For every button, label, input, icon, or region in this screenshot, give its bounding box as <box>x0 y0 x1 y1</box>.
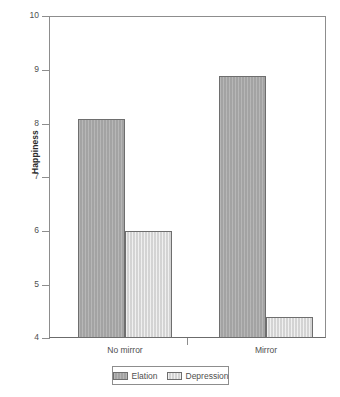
y-tick-group-10: 10 <box>0 11 39 21</box>
y-tick-label-10: 10 <box>3 11 39 20</box>
x-axis-group-separator-tick <box>187 338 188 345</box>
legend-swatch-elation-icon <box>113 372 128 380</box>
y-tick-label-4: 4 <box>3 333 39 342</box>
legend-label-elation: Elation <box>132 371 158 381</box>
y-tick-group-6: 6 <box>0 226 39 236</box>
bar-no-mirror-depression <box>125 231 172 338</box>
y-tick-group-7: 7 <box>0 172 39 182</box>
y-tick-label-6: 6 <box>3 226 39 235</box>
bar-mirror-depression <box>266 317 313 338</box>
y-tick-group-4: 4 <box>0 333 39 343</box>
legend-swatch-depression-icon <box>167 372 182 380</box>
y-tick-group-5: 5 <box>0 280 39 290</box>
legend: Elation Depression <box>112 366 229 385</box>
bar-chart-figure: Happiness 10 9 8 7 6 5 4 No mirror Mirro… <box>0 0 340 397</box>
legend-label-depression: Depression <box>186 371 229 381</box>
x-axis-label-mirror: Mirror <box>226 345 306 355</box>
bar-mirror-elation <box>219 76 266 338</box>
plot-area <box>50 17 325 338</box>
y-tick-group-8: 8 <box>0 119 39 129</box>
x-axis-label-no-mirror: No mirror <box>85 345 165 355</box>
bar-no-mirror-elation <box>78 119 125 338</box>
y-tick-mark-4 <box>42 338 50 339</box>
y-tick-label-7: 7 <box>3 172 39 181</box>
y-tick-label-8: 8 <box>3 119 39 128</box>
y-tick-group-9: 9 <box>0 65 39 75</box>
legend-entry-depression: Depression <box>167 371 229 381</box>
y-tick-label-9: 9 <box>3 65 39 74</box>
y-tick-label-5: 5 <box>3 280 39 289</box>
legend-entry-elation: Elation <box>113 371 158 381</box>
